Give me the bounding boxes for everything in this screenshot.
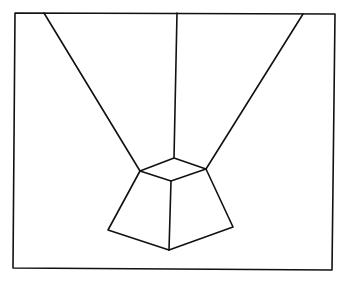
right-convergence-line <box>206 14 303 169</box>
left-convergence-line <box>44 13 140 171</box>
top-face <box>140 158 206 181</box>
center-convergence-line <box>174 13 177 158</box>
perspective-drawing <box>0 0 349 282</box>
front-vertical-edge <box>169 181 171 250</box>
drawing-canvas <box>0 0 349 282</box>
right-side-face <box>169 169 233 250</box>
left-side-face <box>108 171 169 250</box>
